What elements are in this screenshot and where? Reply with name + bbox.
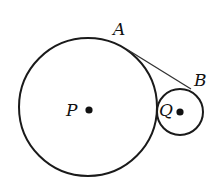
tangent-circles-diagram: A B P Q [0,0,223,182]
center-dot-p [85,106,92,113]
label-b: B [193,70,207,90]
label-q: Q [159,100,173,120]
label-a: A [111,19,125,39]
tangent-segment-ab [128,50,191,89]
center-dot-q [176,108,183,115]
label-p: P [65,100,78,120]
